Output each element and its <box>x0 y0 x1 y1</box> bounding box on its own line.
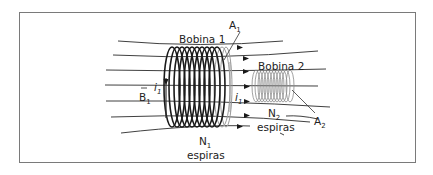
field-arrow-icon <box>237 45 243 50</box>
turns-2-label: N2 <box>268 107 280 122</box>
field-arrow-icon <box>243 69 249 74</box>
field-label: B1 <box>139 91 151 106</box>
turns-2-word: espiras <box>257 121 295 133</box>
field-arrow-icon <box>244 84 250 89</box>
current-right-label: i1 <box>235 91 242 106</box>
coil-1 <box>164 47 233 127</box>
turns-1-word: espiras <box>187 149 225 161</box>
current-left-label: i1 <box>154 81 161 96</box>
coil-diagram: Bobina 1 A1 Bobina 2 i1 B1 i1 N2 espiras… <box>0 0 433 175</box>
field-arrow-icon <box>243 56 249 61</box>
area-2-leader-line <box>292 90 315 113</box>
coil-1-label: Bobina 1 <box>179 33 225 45</box>
area-1-label: A1 <box>229 19 241 34</box>
coil-2-label: Bobina 2 <box>258 60 304 72</box>
turns-1-label: N1 <box>199 135 211 150</box>
area-2-label: A2 <box>314 115 326 130</box>
field-arrow-icon <box>237 124 243 129</box>
